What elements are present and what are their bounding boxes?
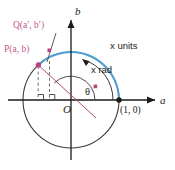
- diagram-canvas: Q(a′, b′) P(a, b) x units x rad θ (1, 0)…: [0, 0, 175, 170]
- point-one-zero-marker: [116, 97, 121, 102]
- point-p-label: P(a, b): [4, 44, 29, 55]
- horizontal-axis-label: a: [160, 94, 166, 106]
- right-angle-marker-p: [38, 95, 43, 101]
- unit-circle-diagram: Q(a′, b′) P(a, b) x units x rad θ (1, 0)…: [0, 0, 175, 170]
- leader-line-q: [47, 33, 56, 62]
- angle-arc-arrowhead: [82, 59, 89, 66]
- ray-endpoint-marker: [94, 85, 98, 89]
- right-angle-marker-q: [50, 95, 55, 101]
- angle-radians-label: x rad: [91, 64, 112, 75]
- horizontal-axis-arrowhead: [147, 97, 155, 104]
- vertical-axis-label: b: [75, 5, 81, 17]
- arc-length-label: x units: [110, 40, 138, 51]
- p-label-marker: [48, 49, 52, 53]
- angle-theta-label: θ: [85, 87, 90, 97]
- point-p-marker: [36, 62, 41, 67]
- point-one-zero-label: (1, 0): [120, 105, 141, 116]
- vertical-axis-arrowhead: [68, 20, 75, 28]
- point-q-label: Q(a′, b′): [13, 20, 44, 31]
- origin-label: O: [63, 103, 71, 115]
